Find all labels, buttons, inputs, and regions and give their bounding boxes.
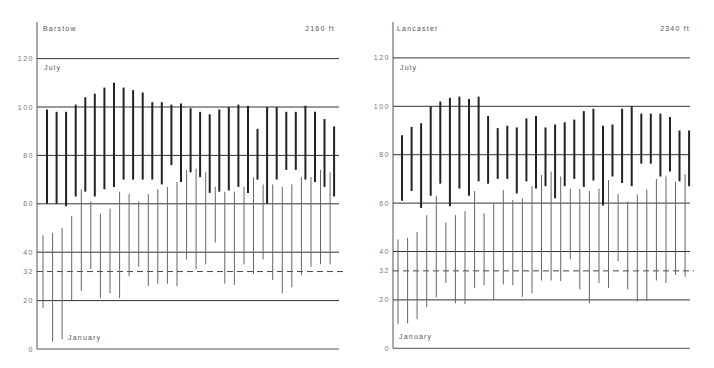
y-tick-label: 120 <box>374 54 390 61</box>
station-name-label: Lancaster <box>397 25 439 32</box>
y-tick-label: 40 <box>23 249 34 256</box>
y-tick-label: 80 <box>23 152 34 159</box>
y-tick-label: 0 <box>385 345 390 352</box>
y-tick-label: 20 <box>23 297 34 304</box>
lancaster-chart-panel: Lancaster 2340 ft July January 020324060… <box>374 22 694 352</box>
barstow-chart-panel: Barstow 2160 ft July January 02032406080… <box>18 22 343 353</box>
july-label: July <box>400 64 417 72</box>
y-tick-label: 20 <box>379 296 390 303</box>
y-tick-label: 100 <box>374 103 390 110</box>
january-label: January <box>399 333 432 341</box>
elevation-label: 2160 ft <box>305 25 335 32</box>
y-tick-label: 32 <box>379 267 390 274</box>
y-tick-label: 80 <box>379 151 390 158</box>
y-tick-label: 60 <box>379 200 390 207</box>
y-tick-label: 100 <box>18 104 34 111</box>
january-label: January <box>68 334 101 342</box>
station-name-label: Barstow <box>43 25 77 32</box>
temperature-range-charts: Barstow 2160 ft July January 02032406080… <box>0 0 714 368</box>
elevation-label: 2340 ft <box>660 25 690 32</box>
july-label: July <box>44 64 61 72</box>
y-tick-label: 60 <box>23 200 34 207</box>
y-tick-label: 120 <box>18 55 34 62</box>
y-tick-label: 32 <box>23 268 34 275</box>
y-tick-label: 0 <box>29 346 34 353</box>
y-tick-label: 40 <box>379 248 390 255</box>
